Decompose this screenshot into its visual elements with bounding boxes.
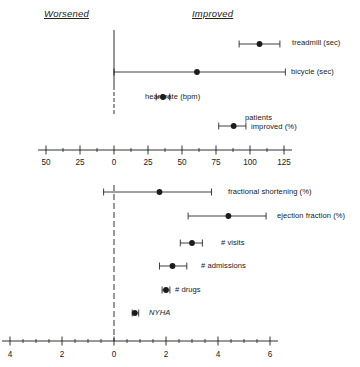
point-estimate-marker	[170, 263, 176, 269]
tick-label-top-4: 50	[177, 158, 186, 167]
tick-label-top-0: 50	[41, 158, 50, 167]
forest-row	[219, 123, 246, 130]
forest-row	[239, 41, 280, 48]
tick-label-bottom-2: 0	[112, 350, 117, 359]
forest-row	[104, 189, 212, 196]
tick-label-bottom-4: 4	[216, 350, 221, 359]
row-label-patients-improved-line2: improved (%)	[251, 123, 297, 132]
point-estimate-marker	[157, 189, 163, 195]
tick-label-top-1: 25	[75, 158, 84, 167]
row-label-patients-improved: patients improved (%)	[245, 114, 297, 131]
point-estimate-marker	[132, 310, 138, 316]
tick-label-top-3: 25	[143, 158, 152, 167]
plot-canvas	[0, 0, 360, 367]
forest-row	[132, 310, 139, 317]
row-label-visits: # visits	[221, 239, 245, 248]
point-estimate-marker	[163, 287, 169, 293]
tick-label-top-2: 0	[112, 158, 117, 167]
point-estimate-marker	[231, 123, 237, 129]
row-label-heart-rate: heart rate (bpm)	[145, 93, 200, 102]
row-label-ejection-fraction: ejection fraction (%)	[277, 212, 345, 221]
forest-row	[180, 240, 202, 247]
forest-row	[160, 263, 187, 270]
tick-label-top-5: 75	[211, 158, 220, 167]
forest-row	[188, 213, 266, 220]
row-label-bicycle: bicycle (sec)	[291, 68, 334, 77]
row-label-nyha: NYHA	[149, 309, 170, 318]
row-label-treadmill: treadmill (sec)	[292, 39, 340, 48]
forest-plot-figure: Worsened Improved treadmill (sec) bicycl…	[0, 0, 360, 367]
tick-label-bottom-1: 2	[60, 350, 65, 359]
tick-label-bottom-5: 6	[268, 350, 273, 359]
forest-row	[114, 69, 285, 76]
header-improved: Improved	[192, 8, 233, 19]
point-estimate-marker	[226, 213, 232, 219]
point-estimate-marker	[257, 41, 263, 47]
row-label-fractional-shortening: fractional shortening (%)	[228, 188, 312, 197]
row-label-patients-improved-line1: patients	[245, 113, 272, 122]
tick-label-bottom-0: 4	[8, 350, 13, 359]
point-estimate-marker	[194, 69, 200, 75]
tick-label-bottom-3: 2	[164, 350, 169, 359]
tick-label-top-7: 125	[277, 158, 291, 167]
header-worsened: Worsened	[44, 8, 89, 19]
row-label-admissions: # admissions	[201, 262, 246, 271]
point-estimate-marker	[189, 240, 195, 246]
row-label-drugs: # drugs	[175, 286, 201, 295]
tick-label-top-6: 100	[243, 158, 257, 167]
forest-row	[162, 287, 170, 294]
